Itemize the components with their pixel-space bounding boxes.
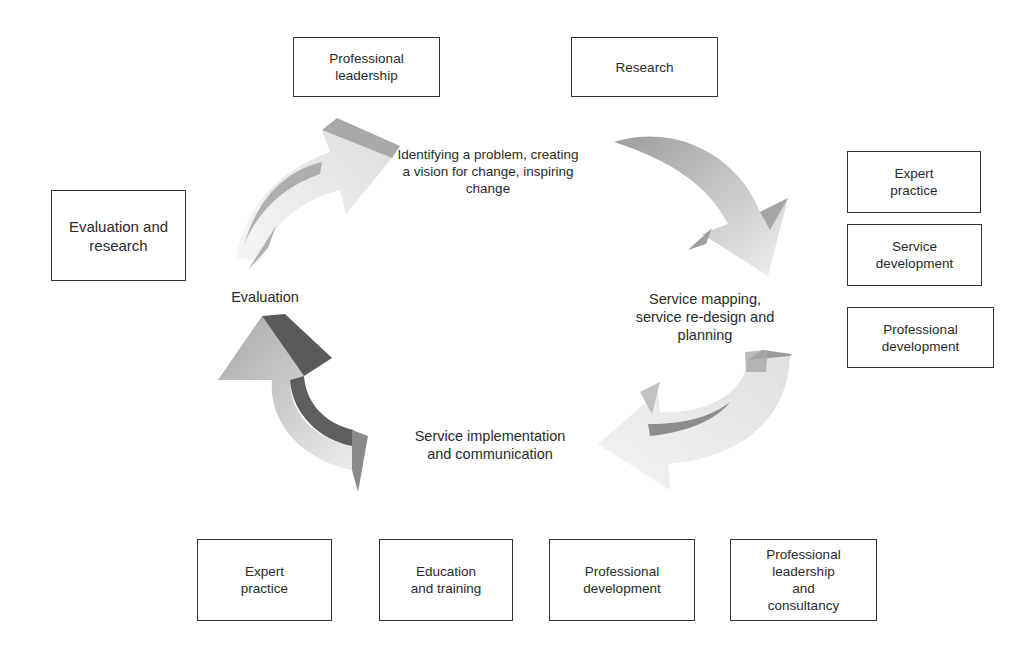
- arrow-evaluation-to-identifying: [236, 118, 400, 270]
- stage-label-service-implementation: Service implementation and communication: [390, 427, 590, 463]
- box-label: Education and training: [411, 563, 482, 597]
- box-education-and-training: Education and training: [379, 539, 513, 621]
- arrow-implementation-to-evaluation: [218, 314, 368, 492]
- box-service-development: Service development: [847, 224, 982, 286]
- arrow-identifying-to-mapping: [614, 137, 788, 276]
- box-label: Expert practice: [890, 165, 937, 199]
- arrow-mapping-to-implementation: [598, 350, 792, 490]
- box-evaluation-and-research: Evaluation and research: [51, 190, 186, 281]
- box-label: Service development: [876, 238, 953, 272]
- box-label: Professional development: [882, 321, 959, 355]
- box-expert-practice-right: Expert practice: [847, 151, 981, 213]
- box-research: Research: [571, 37, 718, 97]
- box-label: Evaluation and research: [69, 217, 168, 255]
- box-label: Professional development: [583, 563, 660, 597]
- stage-label-identifying-problem: Identifying a problem, creating a vision…: [388, 146, 588, 197]
- box-label: Professional leadership: [329, 50, 403, 84]
- box-label: Expert practice: [241, 563, 288, 597]
- box-label: Research: [616, 59, 674, 76]
- box-professional-development-right: Professional development: [847, 307, 994, 368]
- stage-label-service-mapping: Service mapping, service re-design and p…: [615, 290, 795, 344]
- stage-label-evaluation: Evaluation: [215, 288, 315, 306]
- box-professional-leadership-and-consultancy: Professional leadership and consultancy: [730, 539, 877, 621]
- box-professional-leadership: Professional leadership: [293, 37, 440, 97]
- box-expert-practice-bottom: Expert practice: [197, 539, 332, 621]
- box-label: Professional leadership and consultancy: [766, 546, 840, 614]
- box-professional-development-bottom: Professional development: [549, 539, 695, 621]
